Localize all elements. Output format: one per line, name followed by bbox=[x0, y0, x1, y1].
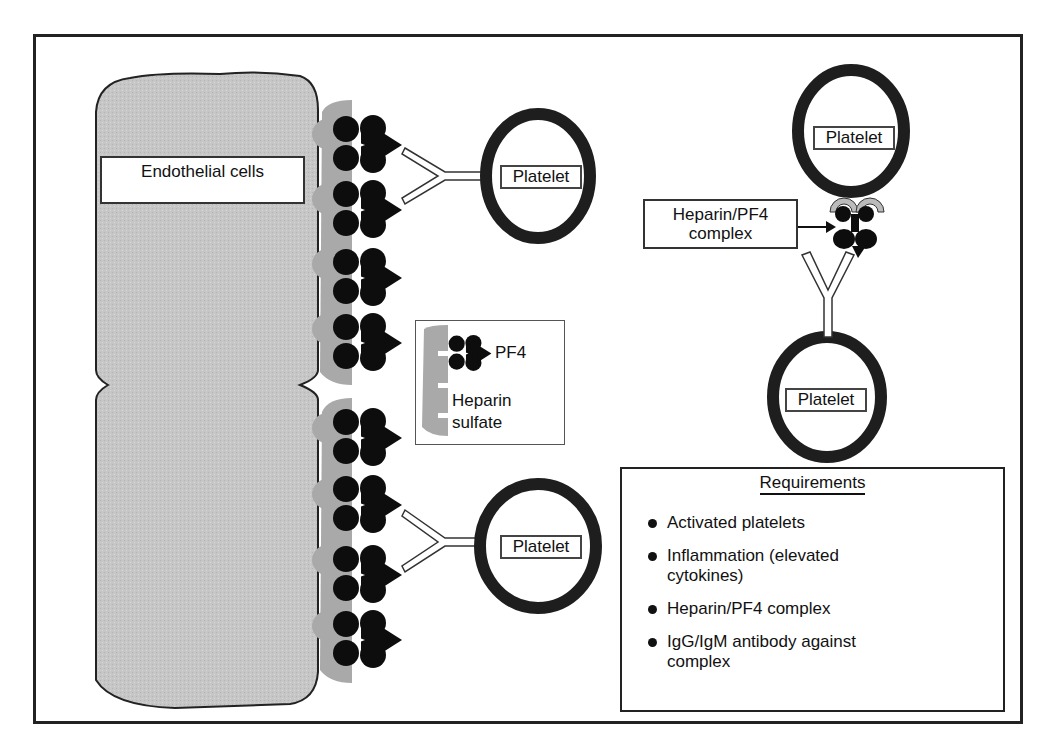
requirement-text: Activated platelets bbox=[667, 513, 805, 532]
endothelial-cells-text: Endothelial cells bbox=[141, 162, 264, 181]
platelet-label-text: Platelet bbox=[513, 537, 570, 556]
requirements-title: Requirements bbox=[622, 473, 1003, 493]
bullet-icon bbox=[648, 552, 657, 561]
platelet-label-lower-left: Platelet bbox=[500, 535, 582, 559]
legend-inset: PF4 Heparin sulfate bbox=[415, 320, 565, 445]
requirement-text: Heparin/PF4 complex bbox=[667, 599, 830, 618]
pf4-legend-label: PF4 bbox=[495, 343, 526, 363]
platelet-label-text: Platelet bbox=[826, 128, 883, 147]
platelet-label-top-right: Platelet bbox=[813, 126, 895, 150]
requirements-box: Requirements Activated platelets Inflamm… bbox=[620, 467, 1005, 712]
platelet-label-bottom-right: Platelet bbox=[785, 388, 867, 412]
endothelial-cells-label: Endothelial cells bbox=[100, 156, 305, 204]
requirements-list: Activated platelets Inflammation (elevat… bbox=[648, 513, 988, 685]
requirements-title-text: Requirements bbox=[760, 473, 866, 495]
bullet-icon bbox=[648, 605, 657, 614]
complex-callout-line2: complex bbox=[645, 224, 796, 243]
heparin-sulfate-legend-line1: Heparin bbox=[452, 391, 512, 411]
heparin-sulfate-legend-line2: sulfate bbox=[452, 413, 502, 433]
complex-arrow bbox=[797, 221, 836, 233]
requirement-item: IgG/IgM antibody against complex bbox=[648, 632, 988, 672]
platelet-label-text: Platelet bbox=[513, 167, 570, 186]
requirement-item: Heparin/PF4 complex bbox=[648, 599, 988, 619]
platelet-label-text: Platelet bbox=[798, 390, 855, 409]
antibody-right bbox=[802, 252, 854, 337]
pf4-legend-icon bbox=[449, 335, 492, 371]
platelet-label-upper-left: Platelet bbox=[500, 165, 582, 189]
heparin-pf4-complex bbox=[830, 198, 884, 258]
complex-callout: Heparin/PF4 complex bbox=[643, 199, 798, 249]
requirement-item: Inflammation (elevated cytokines) bbox=[648, 546, 988, 586]
requirement-text: IgG/IgM antibody against complex bbox=[667, 632, 907, 672]
antibody-lower bbox=[402, 510, 485, 572]
requirement-item: Activated platelets bbox=[648, 513, 988, 533]
complex-callout-line1: Heparin/PF4 bbox=[645, 205, 796, 224]
bullet-icon bbox=[648, 519, 657, 528]
bullet-icon bbox=[648, 638, 657, 647]
requirement-text: Inflammation (elevated cytokines) bbox=[667, 546, 887, 586]
antibody-upper bbox=[402, 148, 485, 204]
